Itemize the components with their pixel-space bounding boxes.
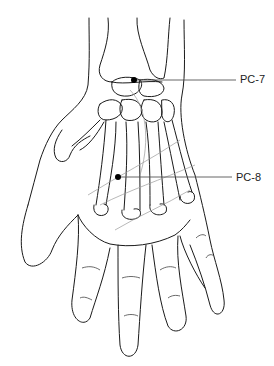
hand-diagram — [0, 0, 274, 366]
carpal-3 — [98, 100, 122, 120]
mc-head-index — [94, 204, 108, 216]
palm-crease-3 — [115, 190, 190, 230]
index-finger — [72, 215, 110, 322]
wrist-crease — [112, 82, 162, 83]
pc7-point — [131, 77, 137, 83]
pc8-point — [115, 174, 121, 180]
ring-finger — [152, 236, 186, 331]
thumb-lower — [21, 205, 78, 266]
metacarpal-little — [164, 120, 192, 200]
crease-middle-2 — [124, 315, 138, 317]
carpal-6 — [162, 100, 174, 122]
crease-ring-1 — [160, 267, 176, 270]
crease-little-1 — [196, 235, 206, 238]
ulna-bone — [137, 18, 170, 79]
crease-little-2 — [206, 255, 214, 258]
forearm-outline-right — [181, 20, 224, 314]
crease-ring-2 — [168, 295, 180, 298]
pc8-label: PC-8 — [236, 172, 261, 183]
crease-middle-1 — [122, 277, 140, 279]
crease-index-1 — [82, 267, 100, 270]
middle-finger — [118, 245, 146, 356]
forearm-outline-left — [28, 18, 89, 205]
crease-index-2 — [80, 297, 92, 300]
radius-bone — [99, 18, 112, 82]
mc-head-little — [180, 191, 195, 203]
pc7-label: PC-7 — [240, 74, 265, 85]
little-finger — [180, 236, 205, 288]
metacarpal-ring — [146, 122, 164, 205]
metacarpal-index — [96, 120, 116, 205]
